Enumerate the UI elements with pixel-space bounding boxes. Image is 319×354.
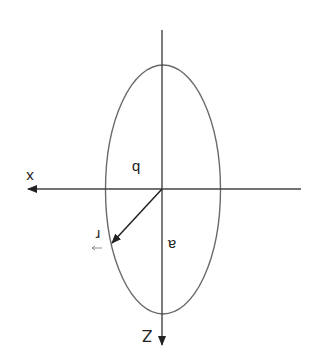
- z-axis-label: Z: [142, 326, 152, 345]
- x-axis-label: x: [26, 169, 34, 186]
- semi-major-label-a: a: [167, 237, 176, 254]
- position-vector-r: [112, 189, 162, 243]
- semi-minor-label-b: b: [132, 160, 140, 177]
- vector-label-r: r: [95, 227, 100, 243]
- ellipsoid-diagram: x Z b a r: [0, 0, 319, 354]
